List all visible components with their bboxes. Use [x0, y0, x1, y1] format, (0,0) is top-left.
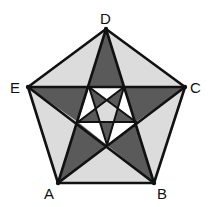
vertex-label-b: B [157, 185, 167, 202]
vertex-label-c: C [190, 79, 201, 96]
vertex-label-a: A [44, 185, 54, 202]
vertex-label-d: D [100, 10, 111, 27]
vertex-point-b [152, 181, 156, 185]
pentagram-diagram: A B C D E [0, 0, 214, 207]
vertex-point-a [56, 181, 60, 185]
vertex-point-d [104, 27, 108, 31]
vertex-label-e: E [10, 79, 20, 96]
vertex-point-c [183, 85, 187, 89]
vertex-point-e [26, 85, 30, 89]
